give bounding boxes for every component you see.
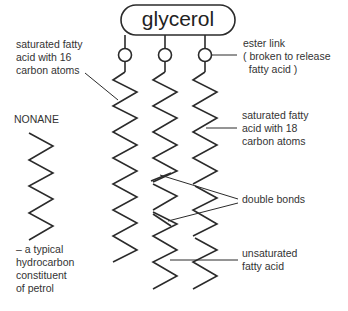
label-nonane-desc-line2: hydrocarbon xyxy=(16,256,74,269)
ester-link-circle-1 xyxy=(119,49,132,62)
leader-double-bond-1 xyxy=(160,175,238,199)
fatty-acid-diagram: glycerol saturated fatty acid with 16 ca… xyxy=(0,0,348,311)
ester-link-circle-3 xyxy=(199,49,212,62)
label-ester-link-line2: ( broken to release xyxy=(243,50,331,63)
label-saturated-16-line1: saturated fatty xyxy=(16,38,83,51)
label-saturated-16-line2: acid with 16 xyxy=(16,51,71,64)
label-nonane-desc-line1: – a typical xyxy=(16,243,63,256)
chain-nonane xyxy=(29,133,53,240)
glycerol-label: glycerol xyxy=(123,6,233,32)
label-nonane-desc-line3: constituent xyxy=(16,269,67,282)
label-nonane-desc-line4: of petrol xyxy=(16,282,54,295)
label-double-bonds: double bonds xyxy=(242,193,305,206)
leader-saturated-16 xyxy=(85,73,118,100)
label-ester-link-line3: fatty acid ) xyxy=(243,63,297,76)
label-unsaturated-line2: fatty acid xyxy=(242,260,284,273)
label-saturated-16-line3: carbon atoms xyxy=(16,64,80,77)
chain-saturated-16 xyxy=(113,72,137,262)
ester-link-circle-2 xyxy=(159,49,172,62)
label-nonane-title: NONANE xyxy=(14,113,59,126)
label-saturated-18-line1: saturated fatty xyxy=(242,109,309,122)
label-saturated-18-line2: acid with 18 xyxy=(242,122,297,135)
label-unsaturated-line1: unsaturated xyxy=(242,247,297,260)
label-saturated-18-line3: carbon atoms xyxy=(242,135,306,148)
chain-unsaturated-1 xyxy=(153,72,177,182)
label-ester-link-line1: ester link xyxy=(243,37,285,50)
